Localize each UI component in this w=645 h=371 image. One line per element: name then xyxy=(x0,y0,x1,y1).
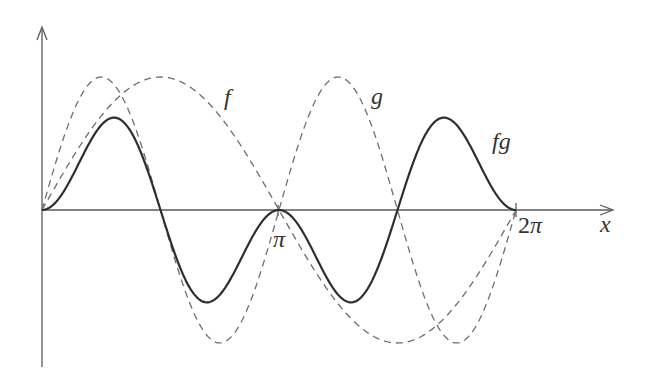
pi-symbol: π xyxy=(530,212,543,238)
x-axis-label: x xyxy=(599,211,611,237)
tick-label-2pi: 2π xyxy=(518,212,543,238)
label-fg: fg xyxy=(492,128,511,154)
chart: π 2π x f g fg xyxy=(0,0,645,371)
tick-label-pi: π xyxy=(273,226,286,252)
label-f: f xyxy=(224,84,234,110)
two-digit: 2 xyxy=(518,212,530,238)
pi-symbol: π xyxy=(273,226,286,252)
label-g: g xyxy=(371,83,383,109)
